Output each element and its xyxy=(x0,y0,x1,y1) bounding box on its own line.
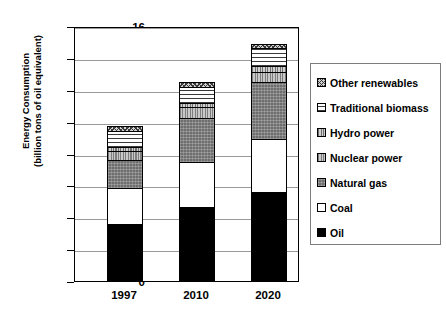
legend-label: Other renewables xyxy=(330,77,418,89)
bar-segment-oil[interactable] xyxy=(107,224,143,281)
bar-segment-nuclear-power[interactable] xyxy=(179,107,215,118)
bar-segment-coal[interactable] xyxy=(107,188,143,224)
bar-segment-natural-gas[interactable] xyxy=(179,118,215,162)
legend-label: Nuclear power xyxy=(330,152,402,164)
y-axis-title-line1: Energy Consumption xyxy=(20,53,32,149)
bar-segment-coal[interactable] xyxy=(179,162,215,207)
legend-item-coal[interactable]: Coal xyxy=(317,195,440,220)
y-axis-tick-mark xyxy=(67,218,74,219)
y-axis-tick-mark xyxy=(67,282,74,283)
legend-label: Natural gas xyxy=(330,177,387,189)
legend-item-nuclear-power[interactable]: Nuclear power xyxy=(317,145,440,170)
bar-segment-natural-gas[interactable] xyxy=(251,82,287,139)
legend-swatch-icon xyxy=(317,228,326,237)
legend-swatch-icon xyxy=(317,153,326,162)
gridline xyxy=(75,28,298,29)
legend-item-natural-gas[interactable]: Natural gas xyxy=(317,170,440,195)
legend-label: Traditional biomass xyxy=(330,102,429,114)
bar-segment-oil[interactable] xyxy=(251,192,287,281)
bar-segment-traditional-biomass[interactable] xyxy=(179,87,215,103)
x-axis-label-1997: 1997 xyxy=(84,289,164,301)
legend-swatch-icon xyxy=(317,103,326,112)
plot-area xyxy=(74,27,299,282)
legend-label: Coal xyxy=(330,202,353,214)
y-axis-tick-mark xyxy=(67,250,74,251)
y-axis-title: Energy Consumption (billion tons of oil … xyxy=(18,6,46,196)
y-axis-tick-mark xyxy=(67,155,74,156)
bar-segment-traditional-biomass[interactable] xyxy=(107,131,143,147)
legend-item-traditional-biomass[interactable]: Traditional biomass xyxy=(317,95,440,120)
x-axis-label-2020: 2020 xyxy=(228,289,308,301)
bar-2010[interactable] xyxy=(179,82,215,281)
legend-item-oil[interactable]: Oil xyxy=(317,220,440,245)
y-axis-tick-mark xyxy=(67,59,74,60)
chart-figure: Energy Consumption (billion tons of oil … xyxy=(0,0,446,320)
y-axis-tick-mark xyxy=(67,91,74,92)
bar-segment-coal[interactable] xyxy=(251,139,287,192)
legend-label: Hydro power xyxy=(330,127,394,139)
legend-item-hydro-power[interactable]: Hydro power xyxy=(317,120,440,145)
legend-swatch-icon xyxy=(317,178,326,187)
legend-swatch-icon xyxy=(317,128,326,137)
bar-2020[interactable] xyxy=(251,44,287,281)
legend-swatch-icon xyxy=(317,78,326,87)
y-axis-tick-mark xyxy=(67,123,74,124)
bar-1997[interactable] xyxy=(107,126,143,281)
y-axis-tick-mark xyxy=(67,27,74,28)
y-axis-title-line2: (billion tons of oil equivalent) xyxy=(32,35,44,167)
chart-legend: Other renewablesTraditional biomassHydro… xyxy=(310,63,441,245)
legend-swatch-icon xyxy=(317,203,326,212)
bar-segment-oil[interactable] xyxy=(179,207,215,281)
x-axis-label-2010: 2010 xyxy=(156,289,236,301)
legend-item-other-renewables[interactable]: Other renewables xyxy=(317,70,440,95)
bar-segment-nuclear-power[interactable] xyxy=(251,72,287,82)
bar-segment-nuclear-power[interactable] xyxy=(107,151,143,160)
bar-segment-natural-gas[interactable] xyxy=(107,160,143,188)
bar-segment-traditional-biomass[interactable] xyxy=(251,48,287,66)
legend-label: Oil xyxy=(330,227,344,239)
y-axis-tick-mark xyxy=(67,186,74,187)
